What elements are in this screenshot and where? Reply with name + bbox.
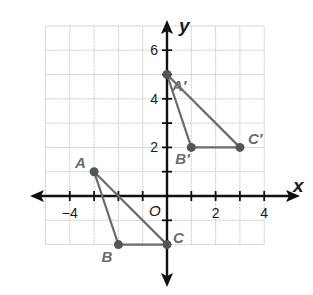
- vertex-label: B′: [175, 150, 191, 167]
- vertex-label: C: [173, 229, 185, 246]
- vertex-point: [90, 167, 99, 176]
- y-axis-label: y: [178, 15, 191, 36]
- origin-label: O: [149, 202, 161, 219]
- vertex-label: A′: [171, 77, 188, 94]
- vertex-point: [114, 240, 123, 249]
- x-axis-label: x: [292, 175, 305, 196]
- vertex-label: C′: [248, 130, 264, 147]
- vertex-point: [163, 70, 172, 79]
- vertex-point: [163, 240, 172, 249]
- x-tick-label: −4: [62, 205, 78, 221]
- vertex-label: B: [101, 248, 112, 265]
- x-tick-label: 2: [212, 205, 220, 221]
- y-tick-label: 2: [150, 139, 158, 155]
- vertex-label: A: [74, 154, 86, 171]
- y-tick-label: 4: [150, 91, 158, 107]
- y-tick-label: 6: [150, 42, 158, 58]
- vertex-point: [235, 143, 244, 152]
- labels: −424246xyOABCA′B′C′: [62, 15, 305, 265]
- x-tick-label: 4: [260, 205, 268, 221]
- coordinate-plane: −424246xyOABCA′B′C′: [0, 0, 313, 295]
